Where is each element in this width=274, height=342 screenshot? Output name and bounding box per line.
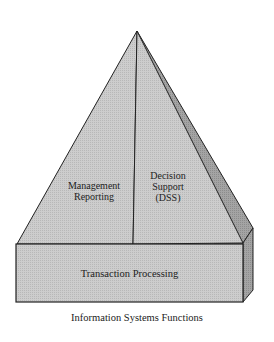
label-line: (DSS) — [143, 192, 193, 203]
label-line: Reporting — [58, 191, 130, 202]
label-line: Decision — [143, 170, 193, 181]
transaction-processing-label: Transaction Processing — [16, 268, 243, 279]
label-line: Support — [143, 181, 193, 192]
pyramid-left-face — [17, 31, 137, 244]
diagram-caption: Information Systems Functions — [0, 312, 274, 323]
decision-support-label: Decision Support (DSS) — [143, 170, 193, 203]
pyramid-diagram — [0, 0, 274, 342]
pyramid-right-face — [133, 31, 243, 244]
label-line: Management — [58, 180, 130, 191]
management-reporting-label: Management Reporting — [58, 180, 130, 202]
